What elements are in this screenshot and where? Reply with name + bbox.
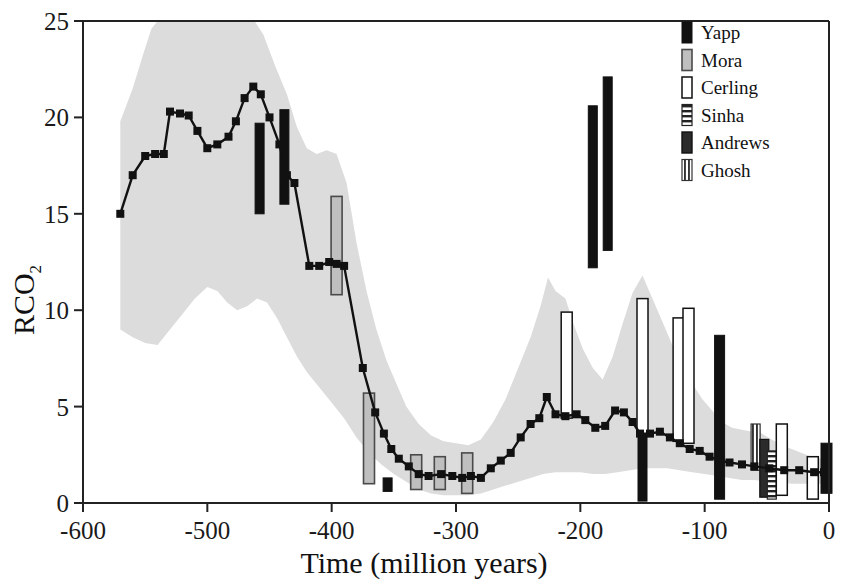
data-point-marker bbox=[696, 447, 704, 455]
data-point-marker bbox=[203, 144, 211, 152]
data-point-marker bbox=[765, 464, 773, 472]
data-point-marker bbox=[333, 260, 341, 268]
legend-label-mora: Mora bbox=[701, 50, 743, 71]
x-tick-label: -500 bbox=[184, 517, 230, 544]
data-point-marker bbox=[232, 117, 240, 125]
proxy-bar-mora bbox=[331, 196, 342, 294]
data-point-marker bbox=[166, 108, 174, 116]
y-axis-title-subscript: 2 bbox=[26, 265, 45, 274]
legend-swatch-sinha bbox=[682, 105, 692, 126]
data-point-marker bbox=[241, 94, 249, 102]
data-point-marker bbox=[176, 110, 184, 118]
data-point-marker bbox=[257, 90, 265, 98]
y-tick-label: 20 bbox=[44, 104, 69, 131]
data-point-marker bbox=[552, 410, 560, 418]
data-point-marker bbox=[477, 474, 485, 482]
data-point-marker bbox=[415, 470, 423, 478]
data-point-marker bbox=[405, 462, 413, 470]
x-tick-label: -400 bbox=[309, 517, 355, 544]
data-point-marker bbox=[716, 457, 724, 465]
proxy-bar-cerling bbox=[807, 457, 818, 499]
x-tick-label: -100 bbox=[682, 517, 728, 544]
data-point-marker bbox=[656, 428, 664, 436]
data-point-marker bbox=[116, 210, 124, 218]
y-tick-label: 15 bbox=[44, 201, 69, 228]
data-point-marker bbox=[266, 113, 274, 121]
data-point-marker bbox=[726, 459, 734, 467]
data-point-marker bbox=[591, 424, 599, 432]
data-point-marker bbox=[305, 262, 313, 270]
data-point-marker bbox=[467, 472, 475, 480]
data-point-marker bbox=[543, 393, 551, 401]
data-point-marker bbox=[795, 466, 803, 474]
proxy-bar-yapp bbox=[383, 478, 392, 492]
data-point-marker bbox=[151, 150, 159, 158]
data-point-marker bbox=[646, 430, 654, 438]
proxy-bar-sinha bbox=[767, 451, 776, 499]
data-point-marker bbox=[581, 416, 589, 424]
y-tick-label: 25 bbox=[44, 8, 69, 35]
proxy-bar-yapp bbox=[588, 106, 597, 268]
x-tick-label: -600 bbox=[60, 517, 106, 544]
data-point-marker bbox=[160, 150, 168, 158]
legend-label-cerling: Cerling bbox=[701, 77, 758, 98]
data-point-marker bbox=[497, 457, 505, 465]
data-point-marker bbox=[507, 449, 515, 457]
data-point-marker bbox=[129, 171, 137, 179]
x-tick-label: 0 bbox=[823, 517, 836, 544]
legend-swatch-ghosh bbox=[682, 160, 692, 181]
legend-swatch-cerling bbox=[682, 77, 692, 98]
data-point-marker bbox=[611, 407, 619, 415]
data-point-marker bbox=[213, 140, 221, 148]
data-point-marker bbox=[573, 410, 581, 418]
data-point-marker bbox=[275, 140, 283, 148]
data-point-marker bbox=[359, 364, 367, 372]
data-point-marker bbox=[340, 262, 348, 270]
proxy-bar-cerling bbox=[683, 308, 694, 443]
data-point-marker bbox=[676, 439, 684, 447]
data-point-marker bbox=[437, 470, 445, 478]
y-tick-label: 5 bbox=[57, 394, 70, 421]
data-point-marker bbox=[666, 433, 674, 441]
legend-label-andrews: Andrews bbox=[701, 132, 770, 153]
x-tick-label: -300 bbox=[433, 517, 479, 544]
x-axis-title: Time (million years) bbox=[300, 546, 547, 580]
proxy-bar-yapp bbox=[638, 434, 647, 502]
data-point-marker bbox=[395, 455, 403, 463]
legend-label-sinha: Sinha bbox=[701, 105, 745, 126]
y-axis-title-base: RCO bbox=[7, 273, 40, 335]
data-point-marker bbox=[620, 408, 628, 416]
legend-label-yapp: Yapp bbox=[701, 22, 740, 43]
data-point-marker bbox=[561, 412, 569, 420]
data-point-marker bbox=[193, 127, 201, 135]
data-point-marker bbox=[448, 472, 456, 480]
data-point-marker bbox=[315, 262, 323, 270]
data-point-marker bbox=[535, 414, 543, 422]
data-point-marker bbox=[185, 112, 193, 120]
proxy-bar-cerling bbox=[561, 312, 572, 418]
data-point-marker bbox=[810, 468, 818, 476]
data-point-marker bbox=[141, 152, 149, 160]
data-point-marker bbox=[458, 474, 466, 482]
y-axis-title: RCO2 bbox=[7, 265, 45, 335]
data-point-marker bbox=[387, 445, 395, 453]
data-point-marker bbox=[750, 462, 758, 470]
legend-swatch-mora bbox=[682, 50, 692, 71]
data-point-marker bbox=[706, 453, 714, 461]
data-point-marker bbox=[487, 464, 495, 472]
y-axis-title-group: RCO2 bbox=[7, 265, 45, 335]
data-point-marker bbox=[629, 418, 637, 426]
data-point-marker bbox=[371, 408, 379, 416]
data-point-marker bbox=[290, 179, 298, 187]
data-point-marker bbox=[820, 468, 828, 476]
data-point-marker bbox=[527, 420, 535, 428]
x-tick-label: -200 bbox=[557, 517, 603, 544]
data-point-marker bbox=[425, 472, 433, 480]
legend-label-ghosh: Ghosh bbox=[701, 160, 751, 181]
data-point-marker bbox=[686, 445, 694, 453]
legend-swatch-andrews bbox=[682, 132, 692, 153]
proxy-bar-yapp bbox=[603, 77, 612, 251]
data-point-marker bbox=[380, 430, 388, 438]
data-point-marker bbox=[325, 258, 333, 266]
data-point-marker bbox=[601, 422, 609, 430]
